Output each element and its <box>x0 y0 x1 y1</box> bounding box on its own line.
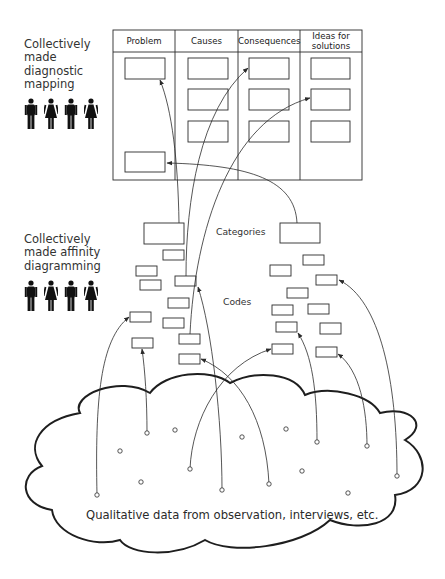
table-card <box>125 58 165 79</box>
data-point <box>145 431 149 435</box>
data-point <box>139 480 143 484</box>
table-frame <box>113 30 362 180</box>
data-point <box>95 493 99 497</box>
data-point <box>118 449 122 453</box>
table-card <box>311 121 350 142</box>
column-header-ideas: Ideas for solutions <box>300 32 362 51</box>
diagnostic-people-group <box>24 98 98 133</box>
man-icon <box>64 98 78 133</box>
woman-icon <box>44 98 58 133</box>
code-box <box>276 322 297 332</box>
code-box <box>163 250 184 260</box>
table-card <box>311 58 350 79</box>
code-box <box>130 312 151 322</box>
data-point <box>240 435 244 439</box>
cloud-caption: Qualitative data from observation, inter… <box>86 508 378 522</box>
table-card <box>249 89 289 110</box>
code-box <box>308 304 329 314</box>
data-points <box>95 427 399 497</box>
code-box <box>175 276 196 286</box>
categories-label: Categories <box>216 226 266 237</box>
codes-label: Codes <box>223 296 251 307</box>
column-header-problem: Problem <box>113 37 175 47</box>
code-box <box>179 334 200 344</box>
table-card <box>249 58 289 79</box>
data-point <box>284 427 288 431</box>
data-point <box>365 444 369 448</box>
code-box <box>270 265 291 276</box>
code-box <box>136 266 157 276</box>
data-point <box>315 440 319 444</box>
data-point <box>188 467 192 471</box>
link-arrow <box>160 80 179 223</box>
table-card <box>311 89 350 110</box>
affinity-diagramming-label: Collectively made affinity diagramming <box>24 233 101 273</box>
code-box <box>132 338 153 348</box>
woman-icon <box>84 280 98 315</box>
category-box <box>144 223 184 244</box>
link-arrow <box>186 68 248 276</box>
code-box <box>168 298 189 308</box>
code-box <box>179 354 200 364</box>
code-box <box>272 344 293 354</box>
code-box <box>320 323 341 334</box>
data-point <box>173 428 177 432</box>
data-point <box>346 491 350 495</box>
man-icon <box>24 98 38 133</box>
diagnostic-mapping-label: Collectively made diagnostic mapping <box>24 38 90 91</box>
man-icon <box>24 280 38 315</box>
woman-icon <box>44 280 58 315</box>
data-point <box>395 474 399 478</box>
code-box <box>303 255 324 265</box>
link-arrow <box>97 317 129 495</box>
link-arrow <box>198 287 222 490</box>
data-point <box>300 469 304 473</box>
link-arrow <box>201 359 269 484</box>
affinity-boxes <box>130 223 341 364</box>
code-box <box>272 305 293 315</box>
column-header-consequences: Consequences <box>238 37 300 47</box>
link-arrow <box>190 349 271 469</box>
link-arrow <box>167 163 297 223</box>
category-box <box>280 223 320 243</box>
code-box <box>316 275 337 285</box>
link-arrow <box>338 354 367 446</box>
table-card <box>188 58 228 79</box>
woman-icon <box>84 98 98 133</box>
table-card <box>125 152 165 172</box>
code-box <box>163 318 184 328</box>
table-card <box>188 121 228 142</box>
data-point <box>267 482 271 486</box>
mapping-table <box>113 30 362 180</box>
code-box <box>316 347 337 357</box>
man-icon <box>64 280 78 315</box>
data-point <box>220 488 224 492</box>
column-header-causes: Causes <box>175 37 238 47</box>
affinity-people-group <box>24 280 98 315</box>
code-box <box>140 280 161 290</box>
code-box <box>287 288 308 298</box>
table-card <box>249 121 289 142</box>
